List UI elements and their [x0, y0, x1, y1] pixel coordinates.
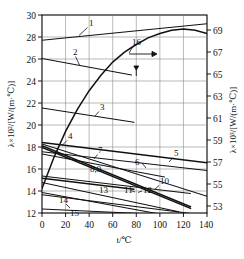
- left-axis-tick-labels: 30 28 26 24 22 20 18 16 14 12: [27, 11, 37, 219]
- right-axis-ticks: [207, 30, 211, 206]
- x-tick-0: 0: [40, 220, 45, 230]
- right-tick-61: 61: [213, 114, 223, 124]
- curve-1: [42, 24, 207, 41]
- curve-4: [42, 142, 207, 162]
- curve-2: [42, 58, 132, 74]
- x-tick-20: 20: [61, 220, 71, 230]
- right-tick-63: 63: [213, 92, 223, 102]
- curve-6: [42, 154, 165, 177]
- left-tick-28: 28: [27, 33, 37, 43]
- left-tick-16: 16: [27, 165, 37, 175]
- curve-label-2: 2: [73, 47, 78, 57]
- x-tick-60: 60: [108, 220, 118, 230]
- left-axis-title: λ×10²/[W/(m·℃)]: [6, 81, 16, 148]
- curve-label-3: 3: [100, 102, 105, 112]
- curve-label-8-9: 8,9: [90, 164, 102, 174]
- curve-label-7: 7: [98, 145, 103, 155]
- thermal-conductivity-chart: 30 28 26 24 22 20 18 16 14 12 69 67 65 6…: [0, 0, 244, 259]
- left-tick-18: 18: [27, 143, 37, 153]
- left-tick-22: 22: [27, 99, 37, 109]
- curve-label-4: 4: [68, 131, 73, 141]
- curve-16: [42, 29, 207, 189]
- curve-label-15: 15: [70, 208, 80, 218]
- curve-5: [42, 152, 207, 171]
- curve-label-14: 14: [59, 195, 69, 205]
- left-axis-ticks: [38, 15, 42, 213]
- curve-label-16: 16: [132, 37, 142, 47]
- left-tick-24: 24: [27, 77, 37, 87]
- x-tick-80: 80: [132, 220, 142, 230]
- x-tick-100: 100: [153, 220, 168, 230]
- right-tick-57: 57: [213, 158, 223, 168]
- left-tick-20: 20: [27, 121, 37, 131]
- x-tick-140: 140: [199, 220, 214, 230]
- right-axis-tick-labels: 69 67 65 63 61 59 57 55 53: [213, 26, 223, 212]
- curve-3: [42, 108, 134, 122]
- x-axis-ticks: [42, 213, 207, 217]
- left-tick-12: 12: [27, 209, 37, 219]
- right-tick-69: 69: [213, 26, 223, 36]
- right-tick-67: 67: [213, 48, 223, 58]
- right-tick-59: 59: [213, 136, 223, 146]
- x-tick-40: 40: [84, 220, 94, 230]
- x-axis-tick-labels: 0 20 40 60 80 100 120 140: [40, 220, 214, 230]
- chart-container: 30 28 26 24 22 20 18 16 14 12 69 67 65 6…: [0, 0, 244, 259]
- curve-label-10: 10: [160, 176, 170, 186]
- curve-label-6: 6: [135, 157, 140, 167]
- x-tick-120: 120: [176, 220, 191, 230]
- left-tick-26: 26: [27, 55, 37, 65]
- curve-label-5: 5: [174, 148, 179, 158]
- right-axis-arrow-icon: [129, 51, 157, 56]
- x-axis-title: t/℃: [116, 235, 131, 245]
- curve-label-12: 12: [143, 185, 152, 195]
- curve-label-13: 13: [99, 185, 109, 195]
- curve-label-11: 11: [124, 185, 133, 195]
- right-tick-53: 53: [213, 202, 223, 212]
- plot-frame: [42, 15, 207, 213]
- left-tick-14: 14: [27, 187, 37, 197]
- left-tick-30: 30: [27, 11, 37, 21]
- right-tick-55: 55: [213, 180, 223, 190]
- reference-marker-head: [134, 66, 139, 70]
- curve-label-1: 1: [89, 18, 94, 28]
- right-axis-title: λ×10³/[W/(m·℃)]: [228, 87, 238, 154]
- right-tick-65: 65: [213, 70, 223, 80]
